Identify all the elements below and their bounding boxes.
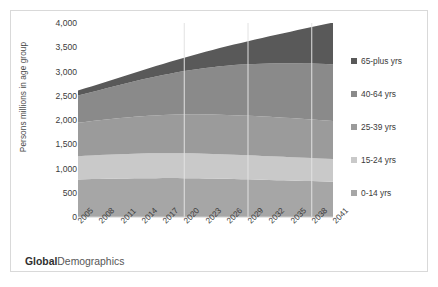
brand-bold: Global <box>25 256 57 267</box>
chart-frame: Persons millions in age group 4,0003,500… <box>10 10 428 272</box>
y-tick-label: 4,000 <box>35 19 77 28</box>
y-tick-label: 2,500 <box>35 92 77 101</box>
area-band-40-64-yrs <box>78 63 333 122</box>
legend-label: 65-plus yrs <box>361 56 402 66</box>
legend-label: 15-24 yrs <box>361 155 396 165</box>
legend-swatch-icon <box>351 91 357 97</box>
legend-swatch-icon <box>351 58 357 64</box>
y-axis-tick-labels: 4,0003,5003,0002,5002,0001,5001,0005000 <box>35 11 77 273</box>
legend-label: 0-14 yrs <box>361 188 391 198</box>
legend-item[interactable]: 0-14 yrs <box>351 187 438 198</box>
y-tick-label: 3,500 <box>35 43 77 52</box>
legend-item[interactable]: 15-24 yrs <box>351 154 438 165</box>
y-tick-label: 0 <box>35 213 77 222</box>
legend-label: 40-64 yrs <box>361 89 396 99</box>
stacked-area-series <box>78 23 333 219</box>
legend-item[interactable]: 25-39 yrs <box>351 121 438 132</box>
y-tick-label: 1,000 <box>35 165 77 174</box>
y-tick-label: 3,000 <box>35 68 77 77</box>
legend-item[interactable]: 40-64 yrs <box>351 88 438 99</box>
legend-label: 25-39 yrs <box>361 122 396 132</box>
y-tick-label: 2,000 <box>35 116 77 125</box>
legend-swatch-icon <box>351 157 357 163</box>
brand-wordmark: GlobalDemographics <box>25 256 124 267</box>
legend-item[interactable]: 65-plus yrs <box>351 55 438 66</box>
y-tick-label: 1,500 <box>35 140 77 149</box>
area-band-15-24-yrs <box>78 153 333 182</box>
y-tick-label: 500 <box>35 189 77 198</box>
chart-legend: 65-plus yrs40-64 yrs25-39 yrs15-24 yrs0-… <box>351 55 438 220</box>
area-band-0-14-yrs <box>78 178 333 217</box>
plot-area <box>78 23 333 217</box>
area-band-25-39-yrs <box>78 114 333 159</box>
x-tick-label: 2041 <box>331 206 350 225</box>
legend-swatch-icon <box>351 190 357 196</box>
brand-light: Demographics <box>57 256 124 267</box>
x-axis-tick-labels: 2005200820112014201720202023202620292032… <box>78 219 340 259</box>
legend-swatch-icon <box>351 124 357 130</box>
y-axis-title: Persons millions in age group <box>19 17 35 177</box>
